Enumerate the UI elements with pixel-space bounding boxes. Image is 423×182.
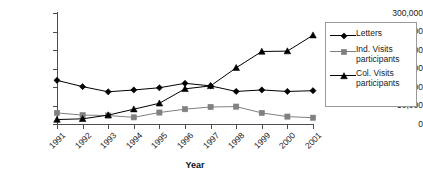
data-point — [259, 87, 265, 93]
data-point — [131, 115, 136, 120]
data-point — [310, 32, 317, 38]
series-square — [54, 104, 315, 120]
legend-label: Letters — [356, 29, 382, 39]
data-point — [54, 77, 60, 83]
data-point — [157, 110, 162, 115]
legend-marker-glyph — [339, 31, 349, 41]
data-point — [234, 104, 239, 109]
data-point — [80, 84, 86, 90]
legend-marker-diamond-icon — [330, 30, 356, 40]
legend-marker-glyph — [339, 71, 349, 81]
legend-marker-triangle-icon — [330, 70, 356, 80]
data-point — [259, 110, 264, 115]
legend-label: Col. Visits participants — [356, 69, 412, 88]
legend-label: Ind. Visits participants — [356, 45, 412, 64]
legend-item[interactable]: Ind. Visits participants — [330, 45, 412, 64]
data-point — [285, 114, 290, 119]
data-point — [233, 88, 239, 94]
data-point — [105, 89, 111, 95]
data-point — [156, 85, 162, 91]
chart-legend: LettersInd. Visits participantsCol. Visi… — [325, 22, 417, 107]
data-point — [284, 88, 290, 94]
legend-marker-square-icon — [330, 46, 356, 56]
legend-marker-glyph — [339, 47, 349, 57]
data-point — [182, 107, 187, 112]
line-chart: 050,000100,000150,000200,000250,000300,0… — [0, 0, 423, 182]
data-point — [156, 100, 163, 106]
x-axis-title: Year — [140, 160, 250, 170]
data-point — [310, 88, 316, 94]
data-point — [54, 110, 59, 115]
data-point — [131, 87, 137, 93]
data-point — [310, 115, 315, 120]
data-point — [233, 64, 240, 70]
data-point — [208, 104, 213, 109]
legend-item[interactable]: Letters — [330, 29, 412, 40]
legend-item[interactable]: Col. Visits participants — [330, 69, 412, 88]
